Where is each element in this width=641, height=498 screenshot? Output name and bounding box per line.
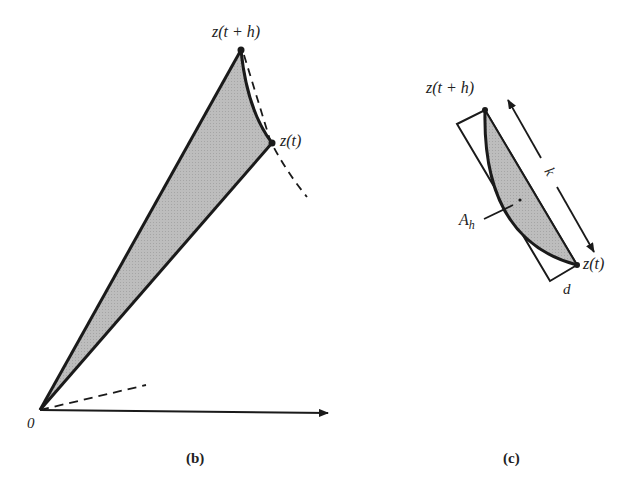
point-z-t-plus-h bbox=[238, 47, 245, 54]
radius-to-z-t bbox=[40, 143, 272, 410]
point-z-t bbox=[269, 140, 276, 147]
label-z-t: z(t) bbox=[279, 132, 301, 150]
point-z-t-plus-h-c bbox=[482, 107, 488, 113]
caption-b: (b) bbox=[186, 450, 204, 467]
panel-c: z(t + h) z(t) Ah k d (c) bbox=[425, 79, 604, 467]
radius-to-z-t-plus-h bbox=[40, 50, 241, 410]
label-z-t-plus-h-c: z(t + h) bbox=[425, 79, 474, 97]
label-length-k: k bbox=[541, 164, 558, 178]
label-width-d: d bbox=[563, 281, 571, 297]
caption-c: (c) bbox=[503, 450, 520, 467]
label-area-subscript: h bbox=[469, 218, 475, 232]
point-z-t-c bbox=[574, 262, 580, 268]
figure-canvas: z(t + h) z(t) 0 (b) z(t + h) z(t) Ah k d… bbox=[0, 0, 641, 498]
panel-b: z(t + h) z(t) 0 (b) bbox=[27, 23, 328, 467]
x-axis-arrow bbox=[40, 410, 328, 413]
label-area: Ah bbox=[458, 211, 475, 232]
area-dot bbox=[518, 198, 521, 201]
label-origin: 0 bbox=[27, 415, 35, 431]
label-z-t-plus-h: z(t + h) bbox=[211, 23, 260, 41]
shaded-sector bbox=[40, 50, 272, 410]
length-arrow-up bbox=[508, 100, 541, 158]
label-z-t-c: z(t) bbox=[582, 255, 604, 273]
label-area-main: A bbox=[458, 211, 469, 228]
